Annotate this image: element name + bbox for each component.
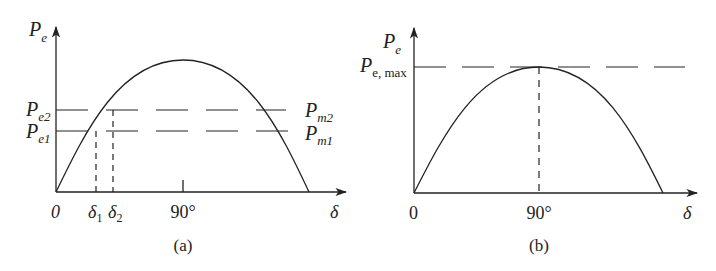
y-axis-label: Pe [28, 18, 47, 45]
tick-90-label: 90° [526, 203, 551, 223]
caption-a: (a) [174, 236, 193, 255]
panel-b: Pe Pe, max 0 90° δ (b) [359, 28, 697, 255]
pemax-label: Pe, max [359, 54, 407, 80]
figure: Pe Pe2 Pe1 Pm2 Pm1 0 δ1 δ2 90° δ (a) Pe … [0, 0, 716, 271]
power-angle-curve [56, 60, 309, 192]
caption-b: (b) [529, 236, 549, 255]
origin-label: 0 [409, 203, 418, 223]
pm1-label: Pm1 [304, 122, 333, 148]
tick-90-label: 90° [170, 202, 195, 222]
delta2-label: δ2 [108, 202, 122, 225]
origin-label: 0 [51, 202, 60, 222]
y-axis-label: Pe [382, 30, 401, 57]
panel-a: Pe Pe2 Pe1 Pm2 Pm1 0 δ1 δ2 90° δ (a) [25, 18, 346, 255]
x-axis-label: δ [330, 202, 339, 222]
delta1-label: δ1 [88, 202, 102, 225]
x-axis-label: δ [683, 203, 692, 223]
